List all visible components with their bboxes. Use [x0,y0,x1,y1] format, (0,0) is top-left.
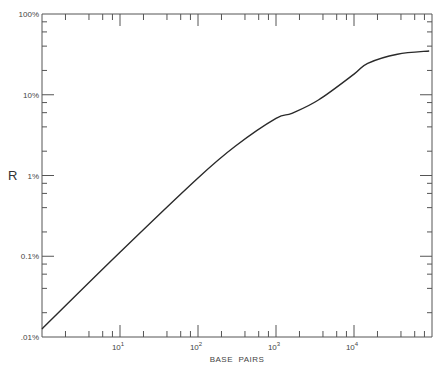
y-tick-label: .01% [21,333,39,342]
y-tick-label: 1% [27,172,39,181]
series-line-r [42,51,429,329]
axes [42,14,432,337]
y-tick-label: 100% [19,10,39,19]
chart: 100%10%1%0.1%.01%101102103104 R BASE PAI… [0,0,447,373]
y-axis-title: R [8,168,17,183]
y-tick-label: 0.1% [21,252,39,261]
x-tick-label: 103 [268,341,281,352]
x-tick-label: 101 [112,341,125,352]
x-tick-label: 102 [190,341,203,352]
x-axis-title: BASE PAIRS [210,355,265,364]
ticks [42,14,432,337]
tick-labels: 100%10%1%0.1%.01%101102103104 [19,10,359,352]
x-tick-label: 104 [346,341,359,352]
y-tick-label: 10% [23,91,39,100]
